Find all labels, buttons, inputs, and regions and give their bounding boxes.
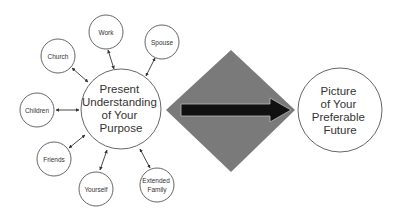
node-children: Children: [20, 93, 54, 127]
center-node: Present Understanding of Your Purpose: [81, 69, 161, 149]
node-children-label: Children: [25, 107, 50, 114]
node-friends: Friends: [37, 142, 71, 176]
node-work-label: Work: [98, 29, 114, 36]
edge-work: [108, 50, 114, 69]
node-yourself-label: Yourself: [84, 186, 107, 193]
transition-connector: [166, 50, 295, 172]
node-church-label: Church: [48, 53, 69, 60]
node-work: Work: [89, 15, 123, 49]
edge-church: [72, 68, 88, 82]
node-spouse: Spouse: [145, 25, 179, 59]
node-church: Church: [41, 39, 75, 73]
edge-spouse: [146, 58, 155, 76]
edge-yourself: [100, 150, 107, 170]
node-yourself: Yourself: [79, 172, 113, 206]
node-friends-label: Friends: [43, 156, 65, 163]
purpose-diagram: Present Understanding of Your Purpose Pi…: [0, 0, 402, 218]
node-extended-family: Extended Family: [140, 168, 174, 202]
target-node: Picture of Your Preferable Future: [298, 68, 382, 152]
edge-friends: [69, 135, 85, 148]
node-spouse-label: Spouse: [151, 39, 173, 47]
edge-extended-family: [140, 149, 150, 168]
